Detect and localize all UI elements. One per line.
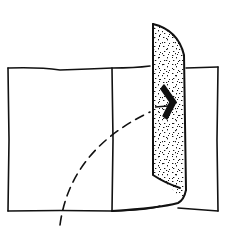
sketch-svg xyxy=(0,0,232,233)
folded-flap xyxy=(112,24,186,211)
diagram-canvas xyxy=(0,0,232,233)
divider-line xyxy=(112,68,113,211)
swing-arc xyxy=(60,112,150,225)
